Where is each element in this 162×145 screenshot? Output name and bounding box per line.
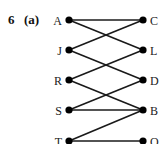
node-o [139, 137, 146, 144]
node-a [65, 16, 72, 23]
node-r [65, 76, 72, 83]
node-c [139, 16, 146, 23]
nodes: AJRSTCLDBO [53, 14, 159, 145]
node-l [139, 46, 146, 53]
edges [69, 20, 143, 141]
node-label-o: O [150, 135, 159, 145]
node-label-r: R [54, 74, 62, 88]
node-label-c: C [150, 14, 158, 28]
node-t [65, 137, 72, 144]
node-label-b: B [150, 104, 158, 118]
node-label-a: A [53, 14, 62, 28]
edge-t-b [69, 110, 143, 141]
node-label-d: D [150, 74, 159, 88]
node-label-l: L [150, 44, 157, 58]
node-j [65, 46, 72, 53]
node-label-t: T [55, 135, 63, 145]
node-s [65, 106, 72, 113]
node-label-s: S [55, 104, 62, 118]
node-b [139, 106, 146, 113]
node-label-j: J [57, 44, 62, 58]
node-d [139, 76, 146, 83]
bipartite-graph: AJRSTCLDBO [0, 0, 162, 144]
